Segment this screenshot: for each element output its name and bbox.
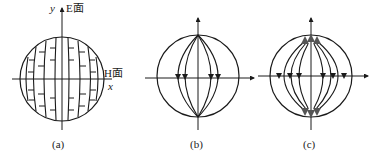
x-axis-label-a: x [107, 80, 113, 92]
h-plane-label: H面 [104, 67, 123, 79]
panel-a: y E面 H面 x (a) [12, 2, 123, 151]
caption-c: (c) [303, 138, 316, 151]
e-plane-label: E面 [66, 2, 84, 14]
figure-canvas: y E面 H面 x (a) (b) [0, 0, 371, 159]
caption-a: (a) [52, 138, 65, 151]
panel-b: (b) [145, 18, 254, 151]
caption-b: (b) [190, 138, 203, 151]
y-axis-label-a: y [49, 2, 55, 14]
panel-c: (c) [258, 18, 368, 151]
